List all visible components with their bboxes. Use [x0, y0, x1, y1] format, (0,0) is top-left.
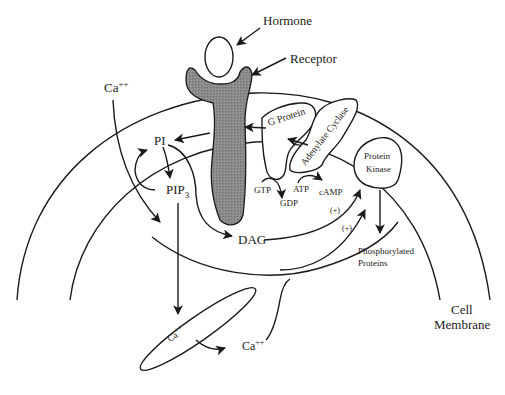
protein-kinase-label-1: Protein: [364, 151, 390, 161]
cell-membrane-label-2: Membrane: [434, 317, 491, 332]
gdp-label: GDP: [280, 198, 298, 208]
cell-membrane-label-1: Cell: [451, 302, 473, 317]
er-calcium-store: [134, 279, 262, 379]
gtp-label: GTP: [254, 185, 271, 195]
camp-label: cAMP: [319, 187, 343, 197]
pi-to-pip3-arrow: [163, 147, 170, 178]
receptor-label: Receptor: [290, 51, 338, 66]
pip3-label: PIP3: [166, 182, 190, 200]
protein-kinase-label-2: Kinase: [366, 164, 391, 174]
dag-label: DAG: [238, 232, 266, 247]
receptor-arrow: [252, 58, 286, 75]
gprotein-to-receptor-arrow: [245, 127, 266, 128]
protein-kinase-shape: [354, 138, 402, 189]
atp-to-camp-arrow: [298, 176, 322, 183]
ca-to-kinase-arrow: [280, 210, 365, 270]
hormone-arrow: [237, 28, 260, 45]
hormone-shape: [205, 37, 233, 77]
phosphorylated-label-2: Proteins: [358, 258, 388, 268]
ca-release-line: [266, 279, 290, 340]
ca-outside-label: Ca++: [104, 79, 129, 95]
phosphorylated-label-1: Phosphorylated: [358, 246, 414, 256]
ca-released-label: Ca++: [242, 338, 265, 353]
outer-membrane-arc: [17, 93, 490, 300]
hormone-label: Hormone: [263, 13, 312, 28]
receptor-shape: [186, 67, 252, 225]
plus-label-ca: (+): [342, 224, 352, 233]
signal-transduction-diagram: Hormone Receptor Ca++ PI PIP3 G Protein …: [0, 0, 505, 395]
receptor-to-pi-arrow: [175, 133, 210, 140]
plus-label-dag: (+): [330, 206, 340, 215]
atp-label: ATP: [293, 184, 309, 194]
pi-label: PI: [154, 133, 166, 148]
